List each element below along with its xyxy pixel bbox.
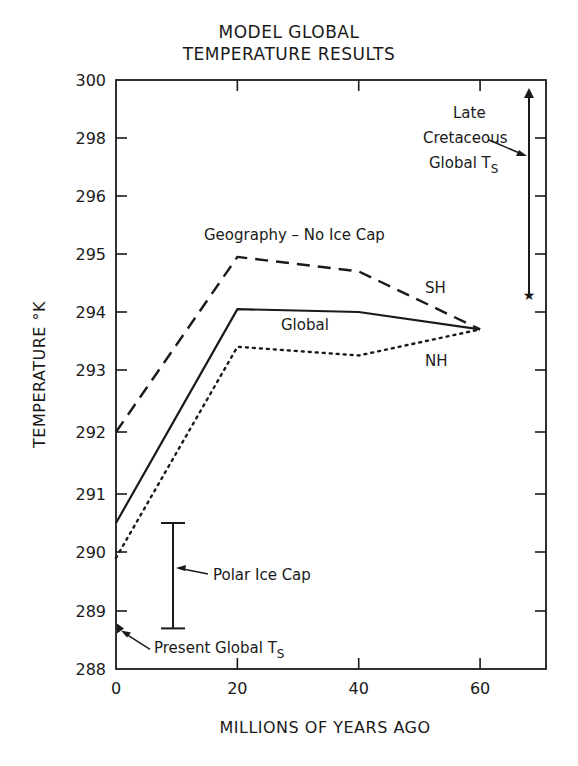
- x-tick-label: 60: [470, 679, 490, 698]
- y-tick-label: 290: [75, 543, 106, 562]
- x-tick-label: 20: [227, 679, 247, 698]
- nh-label: NH: [425, 352, 448, 370]
- y-tick-label: 296: [75, 187, 106, 206]
- arrow-up-icon: [524, 88, 534, 98]
- present-global-label: Present Global TS: [154, 639, 284, 661]
- temperature-chart: 2882892902912922932942952962983000204060…: [0, 0, 578, 766]
- late-label: Late: [453, 104, 486, 122]
- present-global-pointer: [125, 633, 150, 649]
- y-tick-label: 295: [75, 245, 106, 264]
- sh-label: SH: [425, 279, 446, 297]
- annotations: ★: [117, 88, 535, 649]
- x-tick-label: 0: [111, 679, 121, 698]
- global-label: Global: [281, 316, 329, 334]
- y-tick-label: 288: [75, 660, 106, 679]
- star-icon: ★: [523, 287, 536, 303]
- cretaceous-label: Cretaceous: [423, 129, 508, 147]
- arrow-head-icon: [176, 565, 186, 571]
- y-tick-label: 300: [75, 71, 106, 90]
- y-axis-title: TEMPERATURE °K: [30, 301, 49, 449]
- y-tick-label: 292: [75, 423, 106, 442]
- polar-ice-cap-label: Polar Ice Cap: [213, 566, 311, 584]
- y-tick-label: 289: [75, 602, 106, 621]
- y-tick-label: 291: [75, 485, 106, 504]
- x-tick-label: 40: [349, 679, 369, 698]
- geography-label: Geography – No Ice Cap: [204, 226, 385, 244]
- y-tick-label: 298: [75, 129, 106, 148]
- series-lines: [116, 257, 480, 558]
- y-tick-label: 294: [75, 303, 106, 322]
- cretaceous-global-label: Global TS: [429, 154, 498, 176]
- y-tick-label: 293: [75, 361, 106, 380]
- x-axis-title: MILLIONS OF YEARS AGO: [219, 718, 430, 737]
- arrow-head-icon: [516, 150, 527, 156]
